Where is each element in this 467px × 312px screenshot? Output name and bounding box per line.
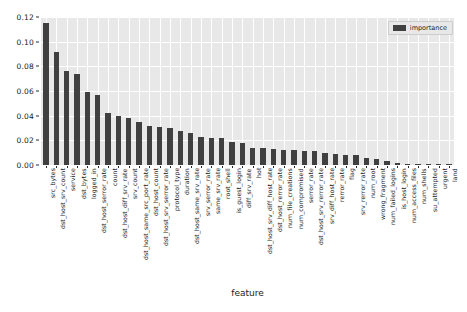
bar <box>374 159 379 165</box>
x-tick-mark <box>263 166 264 168</box>
x-tick-label: dst_host_srv_count <box>59 168 66 229</box>
bar <box>167 128 172 165</box>
x-tick-mark <box>67 166 68 168</box>
bar <box>302 151 307 165</box>
bar <box>426 164 431 165</box>
x-tick-mark <box>377 166 378 168</box>
x-tick-label: same_srv_rate <box>214 168 221 214</box>
x-tick-mark <box>77 166 78 168</box>
x-tick-label: srv_rerror_rate <box>359 168 366 215</box>
x-tick-label: hot <box>255 168 262 178</box>
bar <box>54 52 59 165</box>
x-tick-label: urgent <box>441 168 448 189</box>
bar <box>229 142 234 165</box>
y-tick-mark <box>36 165 39 166</box>
bar <box>322 153 327 165</box>
bar <box>116 116 121 165</box>
x-axis-ticks: src_bytesdst_host_srv_countservicedst_by… <box>41 166 454 286</box>
x-tick-label: dst_host_same_srv_rate <box>193 168 200 244</box>
bar <box>353 155 358 165</box>
x-tick-label: dst_bytes <box>80 168 87 199</box>
y-tick-mark <box>36 115 39 116</box>
bar <box>126 118 131 165</box>
x-tick-mark <box>273 166 274 168</box>
bar <box>415 164 420 165</box>
legend: importance <box>388 21 453 35</box>
bar <box>74 74 79 165</box>
x-tick-label: dst_host_serror_rate <box>100 168 107 233</box>
x-tick-mark <box>56 166 57 168</box>
bar <box>395 163 400 165</box>
x-tick-label: num_access_files <box>410 168 417 223</box>
x-tick-mark <box>387 166 388 168</box>
bar <box>147 126 152 165</box>
bar <box>209 138 214 165</box>
x-tick-mark <box>222 166 223 168</box>
bar <box>364 158 369 165</box>
x-tick-mark <box>449 166 450 168</box>
x-tick-label: count <box>111 168 118 186</box>
y-tick-mark <box>36 17 39 18</box>
x-tick-mark <box>129 166 130 168</box>
legend-label-importance: importance <box>410 24 447 32</box>
bar <box>136 122 141 165</box>
x-tick-mark <box>346 166 347 168</box>
bar <box>312 151 317 165</box>
x-tick-label: logged_in <box>90 168 97 199</box>
bar <box>271 149 276 165</box>
x-tick-label: su_attempted <box>431 168 438 212</box>
x-tick-mark <box>139 166 140 168</box>
y-tick-label: 0.10 <box>17 37 35 46</box>
x-tick-label: root_shell <box>224 168 231 199</box>
x-tick-mark <box>304 166 305 168</box>
x-tick-mark <box>325 166 326 168</box>
y-tick-label: 0.12 <box>17 13 35 22</box>
x-tick-mark <box>335 166 336 168</box>
x-tick-mark <box>201 166 202 168</box>
x-tick-mark <box>191 166 192 168</box>
x-tick-mark <box>284 166 285 168</box>
bar <box>343 155 348 165</box>
x-tick-mark <box>439 166 440 168</box>
y-tick-mark <box>36 140 39 141</box>
x-tick-label: dst_host_count <box>152 168 159 216</box>
x-tick-label: wrong_fragment <box>379 168 386 220</box>
bar <box>219 138 224 165</box>
x-tick-label: serror_rate <box>307 168 314 203</box>
x-tick-label: is_host_login <box>400 168 407 209</box>
bar <box>240 143 245 165</box>
x-tick-label: land <box>451 168 458 182</box>
x-tick-label: srv_serror_rate <box>204 168 211 216</box>
x-tick-mark <box>118 166 119 168</box>
x-tick-mark <box>397 166 398 168</box>
bar <box>85 92 90 165</box>
x-tick-label: service <box>69 168 76 191</box>
bar <box>250 148 255 165</box>
bar <box>64 71 69 165</box>
x-tick-label: src_bytes <box>49 168 56 198</box>
x-tick-label: dst_host_same_src_port_rate <box>142 168 149 260</box>
x-tick-label: num_failed_logins <box>389 168 396 225</box>
x-tick-mark <box>170 166 171 168</box>
y-tick-label: 0.02 <box>17 136 35 145</box>
x-tick-mark <box>46 166 47 168</box>
y-tick-mark <box>36 91 39 92</box>
legend-swatch-importance <box>393 25 406 31</box>
bar <box>405 164 410 165</box>
y-tick-mark <box>36 66 39 67</box>
bar <box>333 154 338 165</box>
bar <box>384 161 389 165</box>
bar-series-importance <box>41 17 454 165</box>
bar <box>436 164 441 165</box>
x-tick-mark <box>98 166 99 168</box>
x-tick-label: num_compromised <box>297 168 304 229</box>
y-axis-ticks: 0.000.020.040.060.080.100.12 <box>0 17 39 165</box>
bar <box>157 127 162 165</box>
x-tick-label: srv_diff_host_rate <box>328 168 335 224</box>
bar <box>260 148 265 165</box>
y-tick-label: 0.00 <box>17 161 35 170</box>
x-tick-label: dst_host_srv_diff_host_rate <box>266 168 273 254</box>
x-tick-mark <box>242 166 243 168</box>
x-tick-label: dst_host_rerror_rate <box>276 168 283 232</box>
bar <box>281 150 286 165</box>
